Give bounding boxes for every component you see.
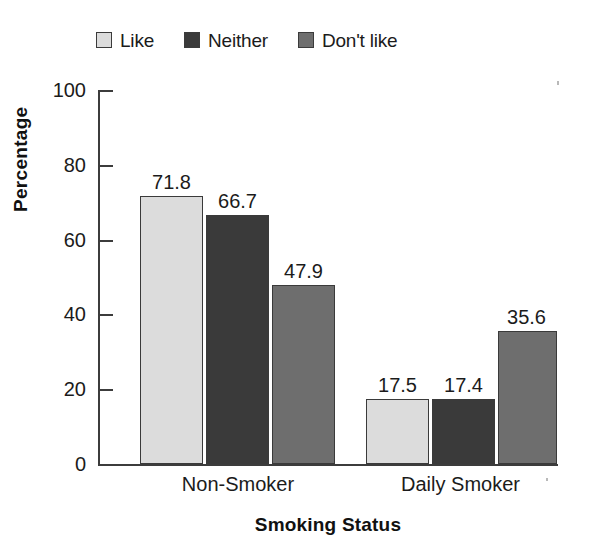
y-tick-20 xyxy=(100,389,113,391)
y-tick-label-100: 100 xyxy=(26,80,86,100)
bar-value-daily-smoker-like: 17.5 xyxy=(366,375,429,395)
y-tick-label-0: 0 xyxy=(26,454,86,474)
legend-item-dont-like[interactable]: Don't like xyxy=(298,28,398,52)
bar-daily-smoker-dont-like[interactable] xyxy=(498,331,557,464)
bar-daily-smoker-like[interactable] xyxy=(366,399,429,464)
scan-speck xyxy=(557,81,559,85)
y-tick-label-60: 60 xyxy=(26,230,86,250)
bar-value-daily-smoker-dont-like: 35.6 xyxy=(495,307,558,327)
chart-legend: Like Neither Don't like xyxy=(96,28,426,52)
bar-non-smoker-neither[interactable] xyxy=(206,215,269,464)
bar-chart: Like Neither Don't like Percentage 100 8… xyxy=(0,0,601,556)
bar-value-non-smoker-dont-like: 47.9 xyxy=(272,261,335,281)
y-tick-label-80: 80 xyxy=(26,155,86,175)
scan-speck xyxy=(546,478,548,481)
legend-label-neither: Neither xyxy=(208,31,268,50)
legend-swatch-like-icon xyxy=(96,32,112,48)
bar-value-non-smoker-like: 71.8 xyxy=(140,172,203,192)
x-axis-title: Smoking Status xyxy=(98,514,558,536)
y-tick-label-group: 100 80 60 40 20 0 xyxy=(24,90,86,464)
bar-non-smoker-like[interactable] xyxy=(140,196,203,465)
y-tick-100 xyxy=(100,90,113,92)
legend-label-dont-like: Don't like xyxy=(322,31,398,50)
legend-item-like[interactable]: Like xyxy=(96,28,154,52)
bar-value-daily-smoker-neither: 17.4 xyxy=(432,375,495,395)
x-axis-line xyxy=(98,464,558,466)
y-tick-40 xyxy=(100,314,113,316)
bar-daily-smoker-neither[interactable] xyxy=(432,399,495,464)
plot-area: 100 80 60 40 20 0 71.8 66.7 47.9 17.5 17… xyxy=(98,90,558,464)
bar-non-smoker-dont-like[interactable] xyxy=(272,285,335,464)
legend-swatch-dont-like-icon xyxy=(298,32,314,48)
x-tick-label-daily-smoker: Daily Smoker xyxy=(363,474,558,494)
y-tick-label-20: 20 xyxy=(26,379,86,399)
y-tick-60 xyxy=(100,240,113,242)
x-tick-label-non-smoker: Non-Smoker xyxy=(138,474,338,494)
legend-label-like: Like xyxy=(120,31,154,50)
legend-swatch-neither-icon xyxy=(184,32,200,48)
y-axis-line xyxy=(98,90,100,464)
bar-value-non-smoker-neither: 66.7 xyxy=(206,191,269,211)
legend-item-neither[interactable]: Neither xyxy=(184,28,268,52)
y-tick-80 xyxy=(100,165,113,167)
y-tick-label-40: 40 xyxy=(26,304,86,324)
